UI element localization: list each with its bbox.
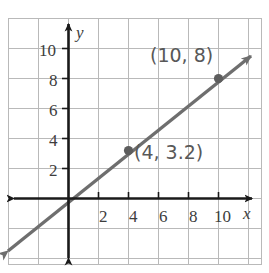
x-tick-label-10: 10	[214, 208, 231, 225]
y-tick-label-4: 4	[49, 132, 58, 149]
y-tick-label-8: 8	[49, 72, 58, 89]
x-tick-label-8: 8	[189, 208, 198, 225]
y-tick-label-10: 10	[39, 42, 56, 59]
data-point-marker-10-8	[214, 74, 223, 83]
x-tick-label-6: 6	[159, 208, 168, 225]
data-point-marker-4-3.2	[124, 146, 133, 155]
x-tick-label-4: 4	[129, 208, 138, 225]
coordinate-graph-figure: 2 4 6 8 10 2 4 6 8 10 y x (10, 8) (4, 3.…	[0, 0, 269, 273]
y-tick-label-2: 2	[49, 162, 58, 179]
y-axis-name: y	[76, 24, 84, 41]
y-tick-label-6: 6	[49, 102, 58, 119]
x-axis-name: x	[243, 205, 251, 222]
point-label-4-3.2: (4, 3.2)	[134, 143, 203, 162]
x-tick-label-2: 2	[99, 208, 108, 225]
point-label-10-8: (10, 8)	[150, 46, 213, 65]
